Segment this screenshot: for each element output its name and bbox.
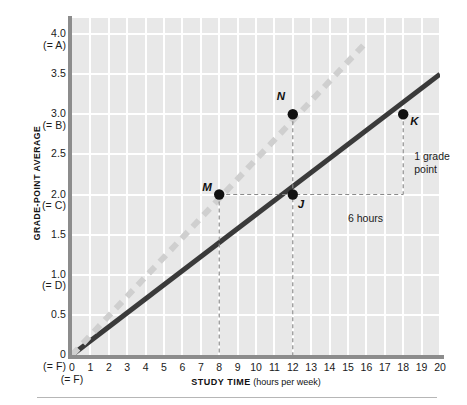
vertical-gridline [310, 18, 312, 355]
vertical-gridline [273, 18, 275, 355]
vertical-gridline [126, 18, 128, 355]
vertical-gridline [181, 18, 183, 355]
rise-label-line1: 1 grade [414, 150, 450, 163]
vertical-gridline [365, 18, 367, 355]
horizontal-gridline [72, 234, 440, 236]
vertical-gridline [439, 18, 440, 355]
chart-figure: 0(= F)0.51.0(= D)1.52.0(= C)2.53.0(= B)3… [0, 0, 467, 405]
point-label-M: M [202, 181, 212, 193]
horizontal-gridline [72, 73, 440, 75]
point-label-K: K [410, 115, 418, 127]
horizontal-gridline [72, 194, 440, 196]
vertical-gridline [347, 18, 349, 355]
x-axis-tick-20: 20 [428, 361, 452, 373]
vertical-gridline [163, 18, 165, 355]
x-axis-title-units: (hours per week) [253, 377, 321, 387]
y-axis-tick-4-0: 4.0(= A) [4, 28, 66, 51]
horizontal-gridline [72, 274, 440, 276]
y-axis-line [68, 16, 72, 357]
vertical-gridline [329, 18, 331, 355]
vertical-gridline [89, 18, 91, 355]
y-tick-value: 3.0 [51, 107, 66, 119]
y-tick-value: 0.5 [51, 308, 66, 320]
horizontal-gridline [72, 33, 440, 35]
y-tick-value: 0 [60, 348, 66, 360]
vertical-gridline [255, 18, 257, 355]
rise-label: 1 gradepoint [414, 150, 450, 175]
y-axis-tick-3-5: 3.5 [4, 68, 66, 80]
vertical-gridline [145, 18, 147, 355]
run-label: 6 hours [348, 212, 383, 225]
run-label-line1: 6 hours [348, 212, 383, 225]
x-axis-title-main: STUDY TIME [191, 377, 250, 387]
horizontal-gridline [72, 314, 440, 316]
footer-divider [37, 397, 437, 398]
y-axis-title: GRADE-POINT AVERAGE [32, 83, 42, 283]
plot-area [72, 18, 440, 355]
y-tick-value: 2.5 [51, 147, 66, 159]
vertical-gridline [421, 18, 423, 355]
vertical-gridline [218, 18, 220, 355]
point-label-N: N [277, 90, 285, 102]
y-tick-value: 2.0 [51, 188, 66, 200]
y-tick-value: 1.0 [51, 268, 66, 280]
horizontal-gridline [72, 113, 440, 115]
y-tick-value: 1.5 [51, 228, 66, 240]
y-tick-grade: (= A) [4, 40, 66, 52]
vertical-gridline [292, 18, 294, 355]
vertical-gridline [237, 18, 239, 355]
rise-label-line2: point [414, 163, 450, 176]
vertical-gridline [384, 18, 386, 355]
x-axis-line [68, 355, 444, 359]
y-axis-tick-0-5: 0.5 [4, 309, 66, 321]
vertical-gridline [402, 18, 404, 355]
y-tick-value: 3.5 [51, 67, 66, 79]
horizontal-gridline [72, 153, 440, 155]
vertical-gridline [108, 18, 110, 355]
point-label-J: J [298, 198, 304, 210]
x-axis-title: STUDY TIME (hours per week) [72, 377, 440, 387]
y-tick-value: 4.0 [51, 27, 66, 39]
